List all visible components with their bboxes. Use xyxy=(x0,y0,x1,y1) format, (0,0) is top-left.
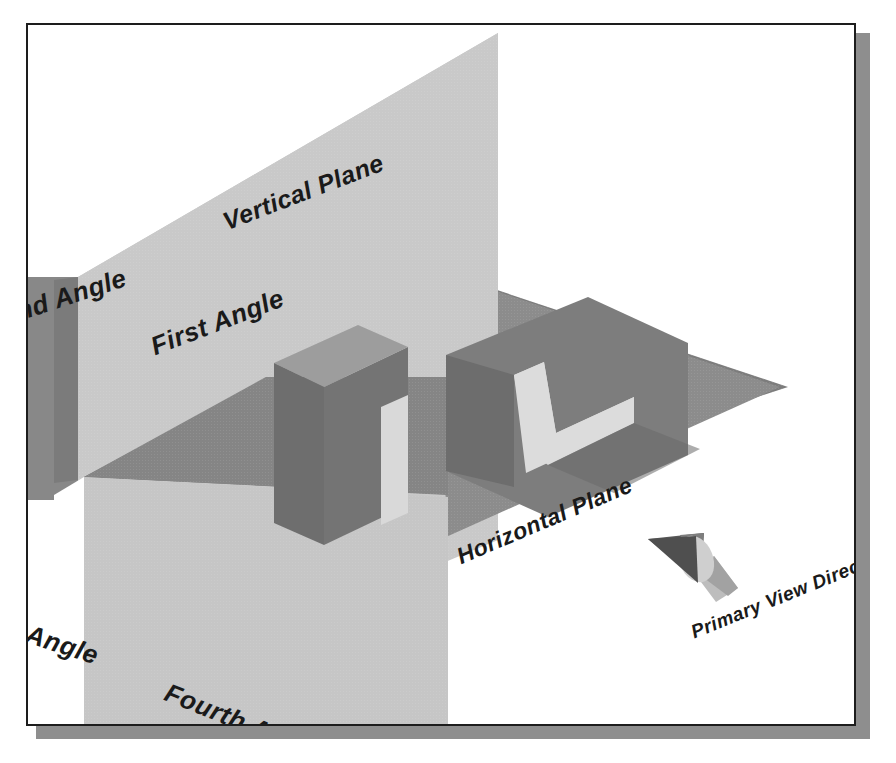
diagram-sheet: Vertical Plane First Angle Horizontal Pl… xyxy=(26,23,856,726)
projected-block-front-face xyxy=(274,363,324,545)
diagram-page: Vertical Plane First Angle Horizontal Pl… xyxy=(0,0,896,763)
left-edge-dark-strip xyxy=(54,277,78,483)
projected-block-right-edge-highlight xyxy=(381,395,408,525)
projection-scene: Vertical Plane First Angle Horizontal Pl… xyxy=(28,25,854,724)
view-direction-arrow-cone-body xyxy=(648,536,698,583)
vertical-plane-lower-left xyxy=(54,477,84,725)
object-front-face xyxy=(446,355,514,487)
projection-scene-svg xyxy=(28,25,856,726)
view-direction-arrow-group xyxy=(648,530,738,602)
